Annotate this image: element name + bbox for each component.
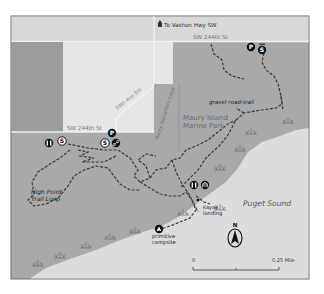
svg-text:P: P <box>249 43 254 50</box>
trailhead-icon: S <box>101 139 109 147</box>
sw-244th-left-label: SW 244th St <box>67 125 103 131</box>
campsite-icon <box>155 225 163 233</box>
gravel-road-trail-label: gravel road-trail <box>209 99 255 106</box>
private-land-block <box>63 42 154 132</box>
picnic-icon <box>201 181 209 189</box>
svg-text:N: N <box>233 222 238 228</box>
campsite-line2: campsite <box>152 239 176 246</box>
park-name-line1: Maury Island <box>183 114 228 122</box>
puget-sound-label: Puget Sound <box>243 199 291 208</box>
park-name-line2: Marine Park <box>183 122 225 130</box>
to-vashon-marker: To Vashon Hwy SW <box>158 20 217 29</box>
high-point-line2: Trail Loop <box>31 195 60 203</box>
sw-244th-top-label: SW 244th St <box>193 34 229 40</box>
svg-text:0.25 Mile: 0.25 Mile <box>272 257 295 263</box>
parking-icon: P <box>247 43 255 51</box>
trail-map: To Vashon Hwy SW SW 244th St SW 244th St… <box>0 0 324 294</box>
left-land-strip <box>12 42 64 132</box>
trailhead-icon: S <box>58 137 66 145</box>
svg-text:S: S <box>60 137 64 144</box>
svg-text:S: S <box>260 46 264 53</box>
bike-icon <box>112 139 120 147</box>
svg-text:S: S <box>103 139 107 146</box>
svg-text:0: 0 <box>192 257 195 263</box>
restroom-icon <box>45 139 53 147</box>
restroom-icon <box>190 181 198 189</box>
private-land-block-2 <box>154 42 173 84</box>
to-vashon-label: To Vashon Hwy SW <box>163 22 217 29</box>
kayak-landing-dot <box>197 199 200 202</box>
svg-text:P: P <box>110 129 115 136</box>
parking-icon: P <box>108 129 116 137</box>
kayak-line2: landing <box>203 210 222 217</box>
